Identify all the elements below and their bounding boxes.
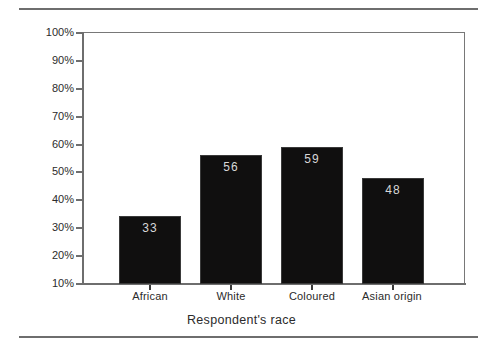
y-tick-30 [76, 227, 82, 229]
y-tick-80 [76, 88, 82, 90]
bar-value-white: 56 [201, 160, 261, 174]
y-tick-10 [76, 283, 82, 285]
y-axis-line [82, 32, 84, 285]
bar-value-african: 33 [120, 221, 180, 235]
top-divider-rule [19, 8, 478, 10]
bar-value-asian-origin: 48 [363, 183, 423, 197]
bar-african[interactable]: 33 [119, 216, 181, 284]
y-tick-label-50: 50% [30, 166, 74, 177]
y-tick-label-70: 70% [30, 111, 74, 122]
y-tick-50 [76, 171, 82, 173]
y-tick-label-90: 90% [30, 55, 74, 66]
y-tick-label-100: 100% [30, 27, 74, 38]
bar-chart-figure: Percentage at least somewhat reconciled … [0, 0, 483, 354]
y-tick-label-80: 80% [30, 83, 74, 94]
y-tick-label-30: 30% [30, 222, 74, 233]
y-tick-20 [76, 255, 82, 257]
x-label-asian-origin: Asian origin [332, 290, 452, 302]
y-tick-label-40: 40% [30, 194, 74, 205]
y-tick-90 [76, 60, 82, 62]
y-tick-label-10: 10% [30, 278, 74, 289]
bar-value-coloured: 59 [282, 152, 342, 166]
y-tick-70 [76, 116, 82, 118]
bar-asian-origin[interactable]: 48 [362, 178, 424, 284]
y-tick-label-60: 60% [30, 139, 74, 150]
y-tick-100 [76, 32, 82, 34]
bottom-divider-rule [19, 336, 478, 338]
bar-coloured[interactable]: 59 [281, 147, 343, 284]
y-tick-60 [76, 144, 82, 146]
bar-white[interactable]: 56 [200, 155, 262, 284]
y-tick-label-20: 20% [30, 250, 74, 261]
x-axis-title: Respondent's race [0, 313, 483, 327]
y-tick-40 [76, 199, 82, 201]
